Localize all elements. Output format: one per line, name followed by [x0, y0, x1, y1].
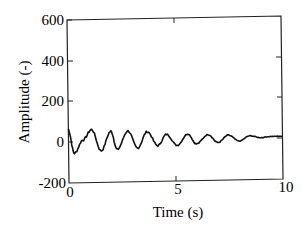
y-tick-label: 400: [42, 53, 65, 69]
chart: 600 400 200 0 -200 0 5 10 Time (s) Ampli…: [0, 0, 307, 230]
x-tick-label: 5: [174, 181, 182, 197]
x-axis-label: Time (s): [153, 204, 204, 221]
y-tick-label: 600: [42, 12, 65, 28]
y-tick-labels: 600 400 200 0 -200: [39, 12, 67, 191]
plot-area: [67, 16, 283, 183]
y-tick-label: 0: [57, 134, 65, 150]
y-tick-label: 200: [42, 93, 65, 109]
y-axis-label: Amplitude (-): [16, 61, 33, 144]
x-tick-label: 10: [279, 179, 294, 195]
axes-box: [67, 16, 283, 183]
y-ticks: [67, 18, 282, 181]
y-tick-label: -200: [39, 175, 67, 191]
x-tick-label: 0: [66, 184, 74, 200]
signal-line: [68, 129, 282, 154]
